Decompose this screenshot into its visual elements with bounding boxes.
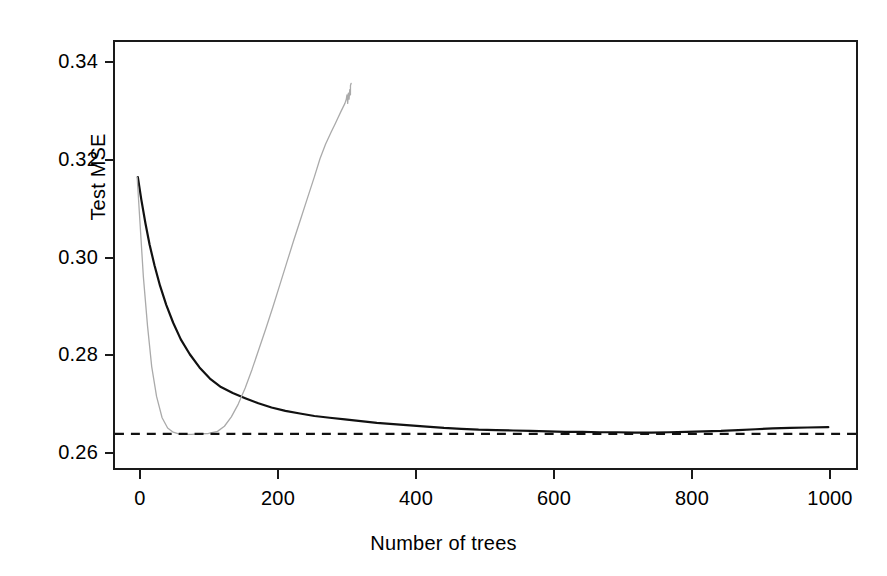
x-tick-label-0: 0 xyxy=(90,488,190,508)
x-tick-label-600: 600 xyxy=(504,488,604,508)
y-tick-0.28 xyxy=(105,354,114,356)
y-tick-label-0.30: 0.30 xyxy=(0,247,98,267)
y-tick-label-0.28: 0.28 xyxy=(0,344,98,364)
test-mse-curve xyxy=(138,177,828,433)
y-tick-label-0.34: 0.34 xyxy=(0,51,98,71)
x-tick-600 xyxy=(553,470,555,479)
x-tick-1000 xyxy=(829,470,831,479)
y-tick-0.34 xyxy=(105,61,114,63)
series-layer xyxy=(137,83,828,434)
chart-figure: 0.34 0.32 0.30 0.28 0.26 0 200 400 600 8… xyxy=(0,0,887,576)
y-tick-label-0.26: 0.26 xyxy=(0,442,98,462)
x-tick-label-1000: 1000 xyxy=(780,488,880,508)
x-tick-label-800: 800 xyxy=(642,488,742,508)
y-axis-title: Test MSE xyxy=(88,77,108,277)
plot-canvas xyxy=(115,42,856,468)
secondary-mse-curve xyxy=(137,83,351,434)
x-tick-0 xyxy=(139,470,141,479)
x-tick-200 xyxy=(277,470,279,479)
x-axis-title: Number of trees xyxy=(0,533,887,553)
y-tick-label-0.32: 0.32 xyxy=(0,149,98,169)
y-tick-0.26 xyxy=(105,452,114,454)
x-tick-label-200: 200 xyxy=(228,488,328,508)
x-tick-label-400: 400 xyxy=(366,488,466,508)
x-tick-800 xyxy=(691,470,693,479)
x-tick-400 xyxy=(415,470,417,479)
plot-area xyxy=(113,40,858,470)
